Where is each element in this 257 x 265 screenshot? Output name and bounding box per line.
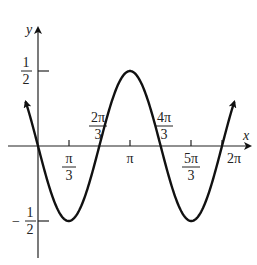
svg-text:−: − — [12, 214, 20, 229]
svg-text:3: 3 — [161, 127, 168, 142]
curve-left-arrow-icon — [26, 102, 27, 107]
y-tick-label-half: 1 2 — [21, 55, 32, 87]
svg-text:1: 1 — [23, 55, 30, 70]
y-tick-label-neg-half: − 1 2 — [12, 205, 36, 237]
sine-graph: x y 1 2 − 1 2 π 3 2π 3 π 4π 3 5π — [0, 0, 257, 265]
x-tick-label-2pi: 2π — [227, 151, 241, 166]
svg-text:2: 2 — [27, 222, 34, 237]
svg-text:π: π — [65, 151, 72, 166]
svg-text:1: 1 — [27, 205, 34, 220]
svg-text:3: 3 — [66, 168, 73, 183]
svg-text:5π: 5π — [184, 151, 198, 166]
y-axis-label: y — [24, 22, 33, 37]
svg-text:π: π — [126, 151, 133, 166]
x-axis-label: x — [242, 128, 250, 143]
svg-text:2π: 2π — [91, 110, 105, 125]
x-tick-label-5pi-over-3: 5π 3 — [182, 151, 200, 183]
svg-text:2: 2 — [23, 72, 30, 87]
svg-text:3: 3 — [188, 168, 195, 183]
svg-text:2π: 2π — [227, 151, 241, 166]
x-tick-label-pi-over-3: π 3 — [62, 151, 76, 183]
x-tick-label-pi: π — [126, 151, 133, 166]
svg-text:4π: 4π — [157, 110, 171, 125]
